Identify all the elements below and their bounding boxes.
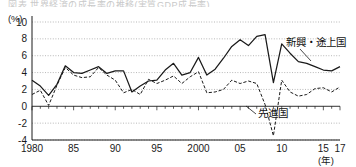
y-tick-label: 6 xyxy=(21,50,27,61)
x-tick-label: 10 xyxy=(276,143,288,154)
x-tick-label: 2000 xyxy=(187,143,210,154)
x-tick-label: 85 xyxy=(68,143,80,154)
x-tick-label: 1980 xyxy=(21,143,44,154)
x-tick-label: 90 xyxy=(110,143,122,154)
emerging-series-label: 新興・途上国 xyxy=(286,36,346,48)
y-tick-label: 10 xyxy=(16,17,28,28)
series-line-advanced xyxy=(32,68,340,136)
advanced-leader-line xyxy=(246,106,256,114)
y-tick-label: -2 xyxy=(18,118,27,129)
emerging-leader-line xyxy=(300,49,311,61)
advanced-series-label: 先進国 xyxy=(258,107,288,119)
x-tick-label: 95 xyxy=(151,143,163,154)
chart-canvas: 1086420-2-41980859095200005101517新興・途上国先… xyxy=(0,0,356,167)
y-tick-label: 8 xyxy=(21,33,27,44)
x-tick-label: 15 xyxy=(318,143,330,154)
growth-rate-chart: 図表 世界経済の成長率の推移(実質GDP成長率) (%) (年) 1086420… xyxy=(0,0,356,167)
y-tick-label: 2 xyxy=(21,84,27,95)
y-tick-label: 4 xyxy=(21,67,27,78)
x-tick-label: 17 xyxy=(334,143,346,154)
y-tick-label: 0 xyxy=(21,101,27,112)
x-tick-label: 05 xyxy=(235,143,247,154)
